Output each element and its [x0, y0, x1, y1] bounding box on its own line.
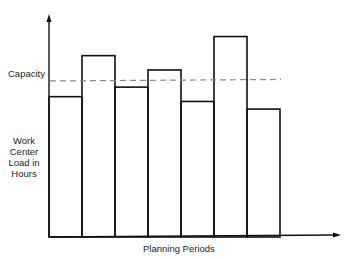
x-axis-label: Planning Periods [143, 243, 215, 254]
capacity-label: Capacity [8, 68, 45, 79]
bars [49, 37, 280, 237]
bar-period-5 [181, 101, 214, 237]
bar-period-3 [115, 87, 148, 237]
x-axis-arrow-icon [333, 233, 341, 238]
x-axis [49, 235, 334, 237]
chart [0, 0, 349, 259]
bar-period-6 [214, 37, 247, 237]
bar-period-2 [82, 56, 115, 237]
bar-period-4 [148, 70, 181, 237]
bar-period-1 [49, 97, 82, 237]
y-axis-label-line: Center [2, 146, 46, 157]
y-axis-arrow-icon [47, 14, 52, 22]
y-axis-label: WorkCenterLoad inHours [2, 135, 46, 179]
y-axis-label-line: Hours [2, 168, 46, 179]
bar-period-7 [247, 109, 280, 237]
y-axis-label-line: Load in [2, 157, 46, 168]
y-axis-label-line: Work [2, 135, 46, 146]
